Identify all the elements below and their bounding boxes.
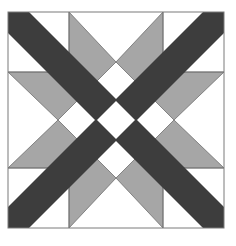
quilt-block-diagram <box>0 0 236 246</box>
